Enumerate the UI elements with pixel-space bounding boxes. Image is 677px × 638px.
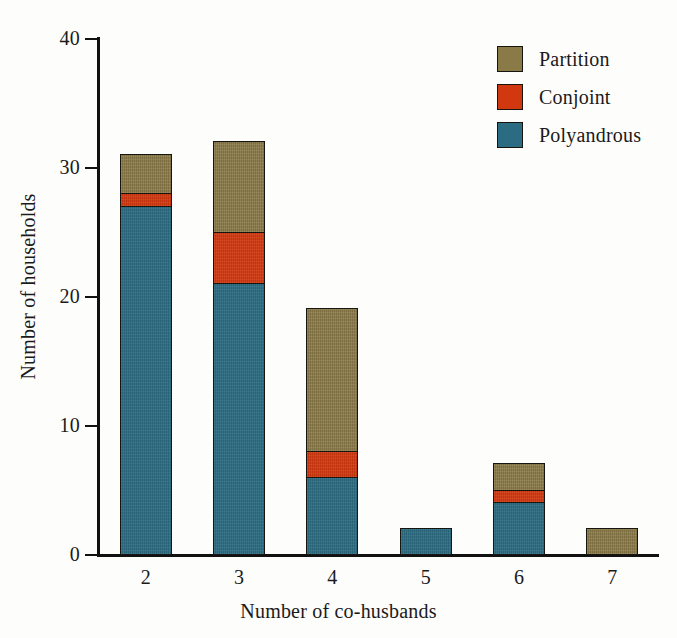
x-axis-tick-label: 6 bbox=[489, 566, 549, 588]
bar-segment-partition[interactable] bbox=[586, 528, 638, 555]
legend-item-conjoint[interactable]: Conjoint bbox=[497, 78, 677, 116]
stacked-bar-chart: 403020100 Number of households 234567 Nu… bbox=[0, 0, 677, 638]
bar-segment-conjoint[interactable] bbox=[306, 450, 358, 477]
legend-label: Polyandrous bbox=[539, 124, 641, 146]
x-axis-tick-label: 4 bbox=[302, 566, 362, 588]
legend-swatch-conjoint bbox=[497, 84, 523, 110]
legend-label: Partition bbox=[539, 48, 610, 70]
bar-group[interactable] bbox=[213, 39, 265, 555]
y-axis-tick-label: 20 bbox=[34, 286, 80, 306]
bar-segment-partition[interactable] bbox=[213, 141, 265, 233]
y-axis-tick-label: 10 bbox=[34, 415, 80, 435]
y-axis-tick bbox=[85, 425, 99, 427]
chart-legend: PartitionConjointPolyandrous bbox=[497, 40, 677, 154]
y-axis-tick bbox=[85, 554, 99, 556]
legend-item-partition[interactable]: Partition bbox=[497, 40, 677, 78]
bar-segment-conjoint[interactable] bbox=[493, 489, 545, 503]
bar-segment-polyandrous[interactable] bbox=[306, 476, 358, 555]
legend-label: Conjoint bbox=[539, 86, 611, 108]
y-axis-tick-label: 40 bbox=[34, 28, 80, 48]
legend-item-polyandrous[interactable]: Polyandrous bbox=[497, 116, 677, 154]
bar-segment-conjoint[interactable] bbox=[213, 231, 265, 284]
x-axis-tick-label: 7 bbox=[582, 566, 642, 588]
y-axis-tick-label: 0 bbox=[34, 544, 80, 564]
x-axis-tick-label: 5 bbox=[396, 566, 456, 588]
bar-segment-partition[interactable] bbox=[493, 463, 545, 490]
y-axis-title: Number of households bbox=[17, 107, 40, 467]
legend-swatch-polyandrous bbox=[497, 122, 523, 148]
y-axis-tick bbox=[85, 38, 99, 40]
x-axis-tick-label: 2 bbox=[116, 566, 176, 588]
bar-segment-polyandrous[interactable] bbox=[120, 205, 172, 555]
x-axis-title: Number of co-husbands bbox=[0, 600, 677, 623]
bar-segment-polyandrous[interactable] bbox=[213, 283, 265, 555]
y-axis-tick-label: 30 bbox=[34, 157, 80, 177]
bar-group[interactable] bbox=[306, 39, 358, 555]
bar-segment-partition[interactable] bbox=[306, 308, 358, 451]
bar-group[interactable] bbox=[400, 39, 452, 555]
bar-segment-partition[interactable] bbox=[120, 154, 172, 194]
bar-segment-conjoint[interactable] bbox=[120, 192, 172, 206]
x-axis-tick-label: 3 bbox=[209, 566, 269, 588]
bar-segment-polyandrous[interactable] bbox=[493, 502, 545, 555]
legend-swatch-partition bbox=[497, 46, 523, 72]
y-axis-tick bbox=[85, 167, 99, 169]
y-axis-tick bbox=[85, 296, 99, 298]
bar-segment-polyandrous[interactable] bbox=[400, 528, 452, 555]
bar-group[interactable] bbox=[120, 39, 172, 555]
